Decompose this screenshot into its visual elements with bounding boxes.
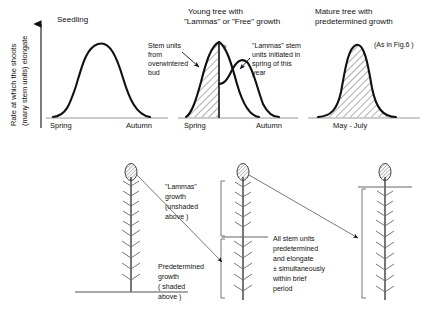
annotation-line-2: from: [148, 51, 162, 58]
figure-root: Rate at which the shoots (many stem unit…: [0, 0, 425, 310]
tree-young-bracket-lower: [221, 239, 225, 298]
label-line-1: Predetermined: [158, 263, 204, 270]
annotation-lammas-stem-units: "Lammas" stem units initiated in spring …: [240, 42, 301, 77]
y-axis-label-line1: Rate at which the shoots: [9, 44, 18, 126]
tree-young-bracket-upper: [221, 181, 225, 236]
annotation-line-1: Stem units: [148, 42, 182, 49]
annotation-line-4: year: [252, 69, 266, 77]
label-line-3: and elongate: [273, 255, 314, 263]
panel-young-title-line2: "Lammas" or "Free" growth: [184, 17, 280, 26]
leader-young-to-mature: [249, 175, 358, 238]
panel-mature-title-line2: predetermined growth: [315, 17, 393, 26]
tree-young-bud-icon: [237, 164, 249, 181]
label-line-3: ( shaded: [158, 283, 185, 291]
label-line-2: predetermined: [273, 245, 318, 253]
tree-young: [221, 164, 268, 301]
panel-mature-shaded-area: [318, 45, 396, 117]
panel-young-x-right: Autumn: [256, 121, 282, 130]
panel-mature-tree: Mature tree with predetermined growth Ma…: [308, 7, 420, 130]
annotation-line-3: spring of this: [252, 60, 292, 68]
panel-young-x-left: Spring: [184, 121, 206, 130]
panel-mature-x-left: May - July: [333, 121, 367, 130]
panel-young-lammas-curve: [219, 60, 279, 117]
panel-young-title-line1: Young tree with: [188, 7, 243, 16]
y-axis-label-line2: (many stem units) elongate: [20, 36, 29, 126]
panel-mature-title-line1: Mature tree with: [315, 7, 372, 16]
panel-young-question-marker: ?: [222, 43, 227, 52]
panel-mature-note: (As in Fig.6 ): [374, 41, 414, 49]
panel-young-tree: Young tree with "Lammas" or "Free" growt…: [148, 7, 301, 130]
panel-seedling-x-right: Autumn: [126, 121, 152, 130]
label-line-2: growth: [165, 193, 186, 201]
label-predetermined-growth: Predetermined growth ( shaded above ): [158, 263, 204, 301]
label-line-6: period: [273, 285, 293, 293]
figure-svg: Rate at which the shoots (many stem unit…: [0, 0, 425, 310]
label-line-4: above ): [165, 213, 188, 221]
annotation-stem-units-overwintered: Stem units from overwintered bud: [148, 42, 199, 76]
tree-mature-bracket: [362, 189, 366, 298]
label-all-stem-units: All stem units predetermined and elongat…: [272, 235, 326, 293]
annotation-line-1: "Lammas" stem: [252, 42, 301, 49]
tree-mature-bud-icon: [379, 164, 391, 181]
panel-seedling-x-left: Spring: [50, 121, 72, 130]
panel-seedling-curve: [53, 43, 150, 117]
panel-seedling-title: Seedling: [57, 15, 88, 24]
label-lammas-growth: "Lammas" growth (unshaded above ): [165, 183, 198, 221]
label-line-4: ± simultaneously: [273, 265, 326, 273]
tree-mature: [358, 164, 412, 301]
tree-seedling-bud-icon: [125, 164, 137, 181]
label-line-3: (unshaded: [165, 203, 198, 211]
label-line-2: growth: [158, 273, 179, 281]
annotation-line-2: units initiated in: [252, 51, 300, 58]
y-axis-group: Rate at which the shoots (many stem unit…: [9, 24, 41, 128]
annotation-line-4: bud: [148, 69, 160, 76]
label-line-4: above ): [158, 293, 181, 301]
label-line-1: All stem units: [273, 235, 315, 242]
annotation-line-3: overwintered: [148, 60, 188, 67]
label-line-5: within brief: [272, 275, 307, 282]
label-line-1: "Lammas": [165, 183, 197, 190]
